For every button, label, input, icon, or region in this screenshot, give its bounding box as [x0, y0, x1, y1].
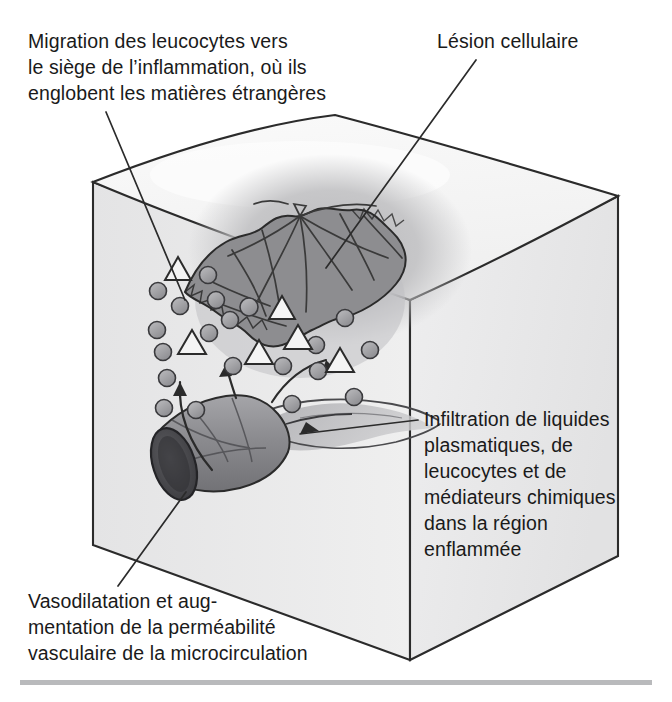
leukocyte [362, 342, 379, 359]
leukocyte [172, 298, 189, 315]
leukocyte [208, 292, 225, 309]
leukocyte [346, 389, 363, 406]
leukocyte [284, 396, 301, 413]
leukocyte [156, 400, 173, 417]
leukocyte [275, 358, 292, 375]
leukocyte [150, 283, 167, 300]
leukocyte [337, 310, 354, 327]
leukocyte [149, 322, 166, 339]
leukocyte [159, 370, 176, 387]
leukocyte [225, 358, 242, 375]
leukocyte [200, 267, 217, 284]
leukocyte [222, 312, 239, 329]
label-migration: Migration des leucocytes vers le siège d… [28, 28, 326, 106]
label-lesion: Lésion cellulaire [437, 28, 579, 54]
tissue-block [93, 115, 618, 660]
leukocyte [240, 298, 258, 316]
label-vasodilatation: Vasodilatation et aug- mentation de la p… [28, 588, 308, 666]
leukocyte [188, 402, 205, 419]
figure-canvas: Migration des leucocytes vers le siège d… [0, 0, 672, 702]
leukocyte [310, 363, 327, 380]
leukocyte [201, 325, 218, 342]
leukocyte [155, 344, 172, 361]
bottom-divider [20, 680, 652, 685]
label-infiltration: Infiltration de liquides plasmatiques, d… [424, 406, 616, 562]
